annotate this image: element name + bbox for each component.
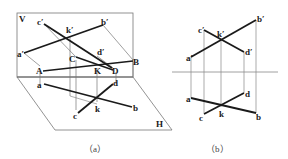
label-b-prime: b′ [101, 17, 109, 27]
line-c-prime-d-prime [44, 24, 112, 68]
label-a: a [37, 80, 42, 90]
label-c-prime: c′ [37, 17, 44, 27]
label-c: c [73, 111, 77, 121]
label-k-prime-b: k′ [217, 29, 225, 39]
line-AB [43, 61, 133, 71]
projection-diagram: V H c′ k′ b′ a′ d′ A B C K D a b c k d （… [0, 0, 288, 159]
label-H: H [156, 119, 163, 129]
label-V: V [19, 14, 26, 24]
label-A: A [36, 66, 43, 76]
label-a-b: a [186, 94, 191, 104]
line-a-prime-b-prime [24, 25, 103, 53]
label-k-b: k [219, 109, 224, 119]
projector-b-prime-B [103, 25, 133, 60]
label-b-prime-b: b′ [257, 14, 265, 24]
projector-a-prime-A [24, 53, 40, 66]
label-k-prime: k′ [66, 25, 74, 35]
label-a-prime: a′ [17, 49, 24, 59]
label-a-prime-b: a′ [186, 53, 193, 63]
label-B: B [133, 57, 139, 67]
label-K: K [94, 66, 101, 76]
label-d-prime-b: d′ [245, 47, 253, 57]
label-b-b: b [256, 112, 261, 122]
label-d: d [113, 78, 118, 88]
figure-b: a′ b′ c′ k′ d′ a b c k d （b） [172, 14, 278, 154]
caption-b: （b） [206, 144, 229, 154]
label-D: D [112, 66, 119, 76]
label-c-prime-b: c′ [198, 25, 205, 35]
label-d-prime: d′ [97, 47, 105, 57]
label-c-b: c [199, 113, 203, 123]
label-d-b: d [245, 89, 250, 99]
label-k: k [95, 104, 100, 114]
figure-a: V H c′ k′ b′ a′ d′ A B C K D a b c k d （… [17, 13, 172, 154]
caption-a: （a） [84, 144, 106, 154]
label-b: b [133, 103, 138, 113]
label-C: C [69, 54, 76, 64]
